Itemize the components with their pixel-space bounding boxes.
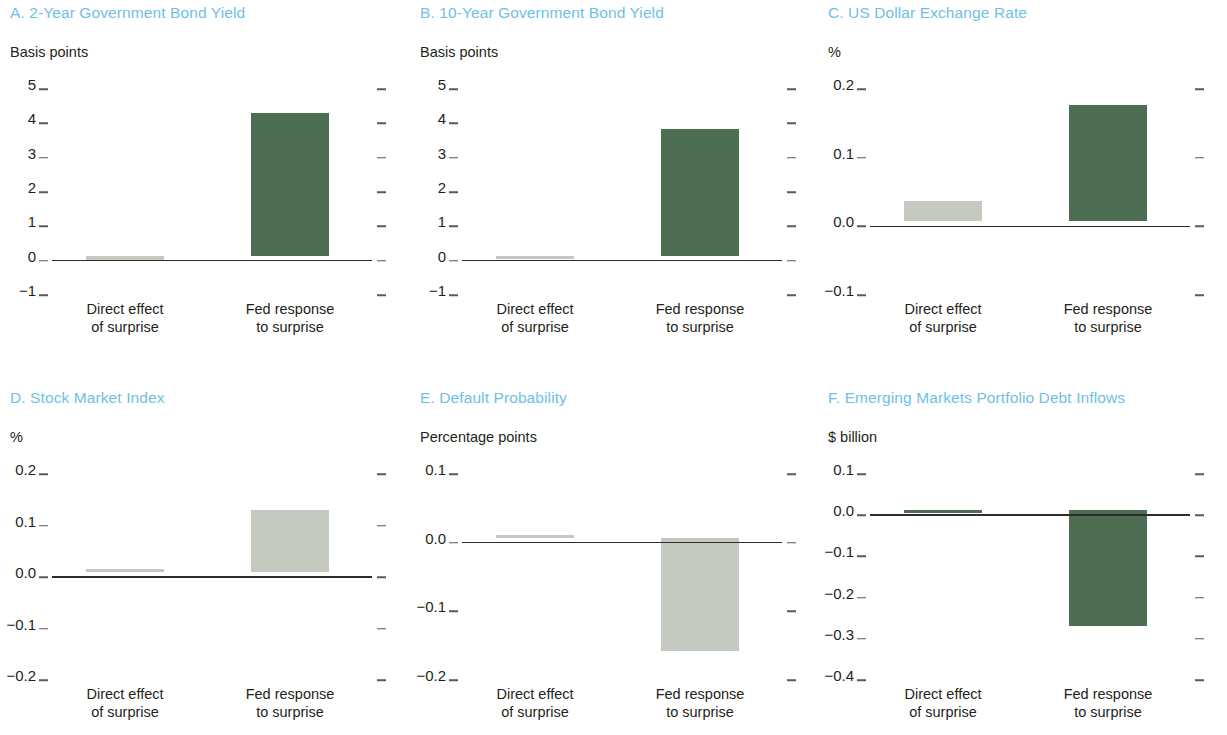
y-axis-tick-label: 0.1 — [410, 461, 446, 478]
y-axis-tick-mark-right — [377, 191, 386, 193]
y-axis-tick-label: 0.1 — [0, 512, 36, 529]
zero-axis-line — [52, 576, 372, 578]
y-axis-tick-mark-right — [377, 576, 386, 578]
x-axis-category-label: Fed responseto surprise — [246, 685, 335, 721]
y-axis-tick-mark-right — [1195, 679, 1204, 681]
x-axis-category-label-line1: Fed response — [1064, 300, 1153, 318]
y-axis-tick-mark-right — [377, 88, 386, 90]
y-axis-tick-label: −0.1 — [818, 282, 854, 299]
y-axis-tick-label: 3 — [410, 144, 446, 161]
y-axis-tick-mark — [449, 542, 458, 544]
chart-panel-b: B. 10-Year Government Bond YieldBasis po… — [410, 0, 819, 367]
y-axis-tick-mark — [449, 611, 458, 613]
y-axis-tick-mark — [39, 473, 48, 475]
plot-area: 0.20.10.0−0.1−0.2Direct effectof surpris… — [0, 385, 409, 735]
y-axis-tick-mark — [857, 226, 866, 228]
zero-axis-line — [462, 542, 782, 544]
y-axis-tick-mark — [857, 88, 866, 90]
y-axis-tick-mark — [39, 226, 48, 228]
y-axis-tick-mark-right — [787, 473, 796, 475]
y-axis-tick-label: 0.0 — [818, 502, 854, 519]
y-axis-tick-mark — [449, 191, 458, 193]
x-axis-category-label-line2: of surprise — [86, 318, 163, 336]
y-axis-tick-label: 4 — [0, 110, 36, 127]
y-axis-tick-mark — [857, 679, 866, 681]
y-axis-tick-mark — [39, 157, 48, 159]
bar-fed-response — [1069, 510, 1147, 625]
bar-fed-response — [1069, 105, 1147, 222]
x-axis-category-label-line1: Direct effect — [904, 685, 981, 703]
y-axis-tick-mark — [857, 597, 866, 599]
y-axis-tick-mark — [857, 638, 866, 640]
zero-axis-line — [52, 260, 372, 262]
y-axis-tick-mark-right — [377, 473, 386, 475]
x-axis-category-label-line1: Direct effect — [86, 685, 163, 703]
y-axis-tick-label: −0.4 — [818, 667, 854, 684]
y-axis-tick-mark-right — [377, 525, 386, 527]
y-axis-tick-mark — [857, 157, 866, 159]
x-axis-category-label: Direct effectof surprise — [904, 300, 981, 336]
y-axis-tick-mark-right — [377, 679, 386, 681]
x-axis-category-label-line2: to surprise — [246, 318, 335, 336]
bar-direct-effect — [86, 569, 164, 572]
y-axis-tick-mark-right — [1195, 638, 1204, 640]
y-axis-tick-label: 0.1 — [818, 461, 854, 478]
y-axis-tick-mark-right — [377, 260, 386, 262]
x-axis-category-label: Direct effectof surprise — [86, 300, 163, 336]
bar-fed-response — [661, 538, 739, 651]
y-axis-tick-label: 2 — [410, 179, 446, 196]
y-axis-tick-mark-right — [787, 226, 796, 228]
y-axis-tick-label: 0 — [0, 247, 36, 264]
x-axis-category-label-line1: Direct effect — [496, 685, 573, 703]
x-axis-category-label-line2: of surprise — [904, 318, 981, 336]
x-axis-category-label-line1: Direct effect — [86, 300, 163, 318]
bar-direct-effect — [496, 256, 574, 259]
x-axis-category-label: Fed responseto surprise — [246, 300, 335, 336]
y-axis-tick-label: 1 — [0, 213, 36, 230]
y-axis-tick-label: −1 — [0, 282, 36, 299]
x-axis-category-label-line1: Fed response — [1064, 685, 1153, 703]
y-axis-tick-mark-right — [377, 294, 386, 296]
y-axis-tick-label: −0.1 — [0, 615, 36, 632]
x-axis-category-label: Direct effectof surprise — [86, 685, 163, 721]
x-axis-category-label-line2: of surprise — [86, 703, 163, 721]
y-axis-tick-mark — [449, 123, 458, 125]
y-axis-tick-mark-right — [1195, 597, 1204, 599]
y-axis-tick-mark-right — [787, 679, 796, 681]
y-axis-tick-mark-right — [787, 260, 796, 262]
plot-area: 543210−1Direct effectof surpriseFed resp… — [0, 0, 409, 367]
y-axis-tick-mark — [39, 260, 48, 262]
y-axis-tick-label: 5 — [410, 76, 446, 93]
y-axis-tick-mark — [39, 576, 48, 578]
x-axis-category-label: Fed responseto surprise — [1064, 685, 1153, 721]
y-axis-tick-label: 0.0 — [410, 529, 446, 546]
y-axis-tick-label: −0.2 — [0, 667, 36, 684]
chart-panel-d: D. Stock Market Index%0.20.10.0−0.1−0.2D… — [0, 385, 409, 735]
y-axis-tick-mark-right — [377, 628, 386, 630]
y-axis-tick-label: −0.2 — [818, 584, 854, 601]
y-axis-tick-label: 3 — [0, 144, 36, 161]
y-axis-tick-mark-right — [787, 123, 796, 125]
bar-fed-response — [661, 129, 739, 256]
y-axis-tick-mark — [857, 556, 866, 558]
chart-panel-f: F. Emerging Markets Portfolio Debt Inflo… — [818, 385, 1227, 735]
x-axis-category-label-line1: Fed response — [656, 300, 745, 318]
y-axis-tick-label: 5 — [0, 76, 36, 93]
y-axis-tick-label: −0.1 — [410, 598, 446, 615]
y-axis-tick-label: −0.3 — [818, 625, 854, 642]
plot-area: 0.10.0−0.1−0.2Direct effectof surpriseFe… — [410, 385, 819, 735]
y-axis-tick-mark — [449, 473, 458, 475]
y-axis-tick-mark-right — [377, 123, 386, 125]
y-axis-tick-label: 0.2 — [818, 76, 854, 93]
y-axis-tick-mark-right — [1195, 226, 1204, 228]
y-axis-tick-label: −0.1 — [818, 543, 854, 560]
zero-axis-line — [870, 226, 1190, 228]
y-axis-tick-mark — [449, 679, 458, 681]
y-axis-tick-mark-right — [377, 226, 386, 228]
y-axis-tick-mark — [857, 294, 866, 296]
y-axis-tick-mark — [857, 473, 866, 475]
y-axis-tick-mark-right — [787, 88, 796, 90]
plot-area: 0.10.0−0.1−0.2−0.3−0.4Direct effectof su… — [818, 385, 1227, 735]
y-axis-tick-mark-right — [787, 542, 796, 544]
x-axis-category-label-line1: Fed response — [246, 300, 335, 318]
